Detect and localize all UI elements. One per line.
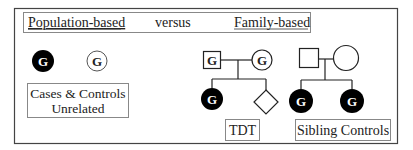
svg-text:G: G — [92, 54, 102, 69]
father-square-icon — [300, 49, 319, 68]
mother-genotype: G — [257, 53, 267, 68]
cases-controls-caption-line1: Cases & Controls — [30, 86, 125, 101]
tdt-pedigree: G G G — [201, 50, 278, 114]
diagram-canvas: Population-based versus Family-based G G… — [0, 0, 413, 150]
child1-genotype: G — [296, 94, 306, 109]
child2-genotype: G — [347, 94, 357, 109]
versus-label: versus — [155, 15, 191, 30]
tdt-caption: TDT — [229, 123, 257, 138]
case-symbol: G — [32, 50, 54, 72]
svg-text:G: G — [38, 54, 48, 69]
cases-controls-caption-line2: Unrelated — [51, 101, 104, 116]
sibling-controls-caption: Sibling Controls — [297, 123, 389, 138]
mother-circle-icon — [334, 46, 359, 71]
father-genotype: G — [207, 53, 217, 68]
population-based-label: Population-based — [28, 15, 125, 30]
family-based-label: Family-based — [234, 15, 310, 30]
affected-child-genotype: G — [207, 92, 217, 107]
sibling-diamond-icon — [254, 90, 278, 114]
sibling-controls-pedigree: G G — [289, 46, 364, 114]
control-symbol: G — [87, 51, 107, 71]
